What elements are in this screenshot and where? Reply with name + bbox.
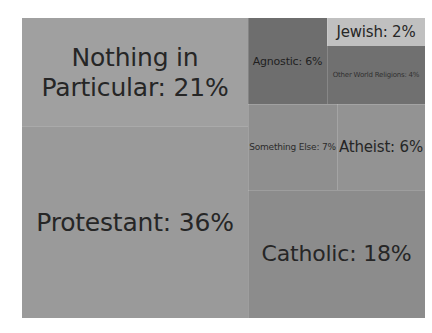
treemap-tile-catholic[interactable]: Catholic: 18% <box>248 190 425 318</box>
treemap-tile-something-else[interactable]: Something Else: 7% <box>248 104 337 190</box>
treemap-tile-label-protestant: Protestant: 36% <box>24 210 246 235</box>
treemap-tile-label-jewish: Jewish: 2% <box>336 25 415 40</box>
treemap-plot-area: Nothing inParticular: 21% Protestant: 36… <box>22 18 425 318</box>
treemap-tile-label-agnostic: Agnostic: 6% <box>253 56 323 67</box>
treemap-tile-label-nothing-in-particular: Nothing inParticular: 21% <box>28 43 243 102</box>
treemap-tile-nothing-in-particular[interactable]: Nothing inParticular: 21% <box>22 18 248 126</box>
treemap-tile-label-catholic: Catholic: 18% <box>262 243 412 265</box>
treemap-tile-protestant[interactable]: Protestant: 36% <box>22 126 248 318</box>
tile-label-line-2: Particular: 21% <box>42 72 229 101</box>
treemap-tile-agnostic[interactable]: Agnostic: 6% <box>248 18 327 104</box>
treemap-chart: Nothing inParticular: 21% Protestant: 36… <box>0 0 432 333</box>
treemap-tile-other-world-religions[interactable]: Other World Religions: 4% <box>327 46 425 104</box>
treemap-tile-label-other-world-religions: Other World Religions: 4% <box>333 72 420 79</box>
tile-label-line-1: Nothing in <box>71 43 198 72</box>
treemap-tile-label-something-else: Something Else: 7% <box>249 143 336 152</box>
treemap-tile-atheist[interactable]: Atheist: 6% <box>337 104 425 190</box>
treemap-tile-jewish[interactable]: Jewish: 2% <box>327 18 425 46</box>
treemap-tile-label-atheist: Atheist: 6% <box>339 140 423 155</box>
